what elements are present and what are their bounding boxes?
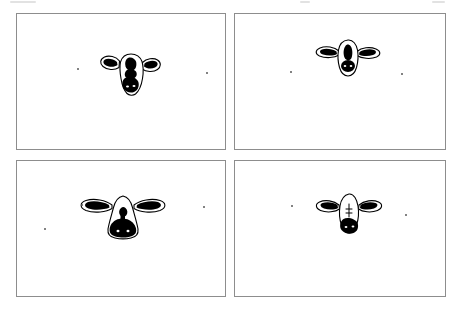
cow-head-drawing — [80, 191, 166, 243]
panel-top-left: 1 — [16, 13, 226, 150]
scan-speck — [405, 214, 407, 216]
panel-content: 1 — [17, 14, 225, 149]
scan-speck — [291, 205, 293, 207]
panel-bottom-right: 4 — [234, 160, 446, 297]
panel-bottom-left: 3 — [16, 160, 226, 297]
cow-head-drawing — [315, 191, 383, 239]
scan-speck — [290, 71, 292, 73]
scan-speck — [206, 72, 208, 74]
scan-speck — [44, 228, 46, 230]
panel-top-right: 2 — [234, 13, 446, 150]
scan-speck — [81, 204, 83, 206]
panel-content: 2 — [235, 14, 445, 149]
cow-head-drawing — [97, 47, 165, 99]
panel-grid: 1 — [0, 0, 457, 309]
cow-head-drawing — [313, 36, 383, 82]
scan-speck — [401, 73, 403, 75]
panel-content: 3 — [17, 161, 225, 296]
scan-speck — [203, 206, 205, 208]
panel-content: 4 — [235, 161, 445, 296]
scan-speck — [77, 68, 79, 70]
